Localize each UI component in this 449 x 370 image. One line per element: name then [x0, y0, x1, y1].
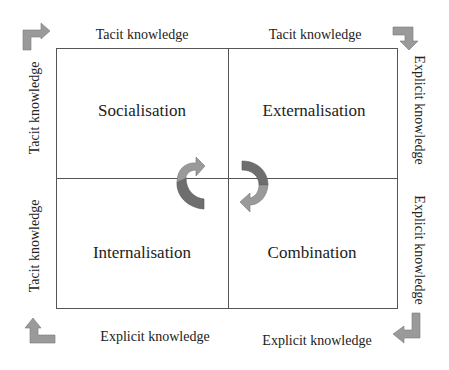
bent-arrow-right-icon	[23, 23, 50, 50]
bent-arrow-down-icon	[393, 27, 418, 50]
curved-cycle-arrow-icon	[177, 157, 205, 209]
bent-arrow-up-icon	[25, 318, 55, 343]
curved-cycle-arrow-icon	[240, 161, 268, 212]
bent-arrow-left-icon	[393, 313, 420, 343]
